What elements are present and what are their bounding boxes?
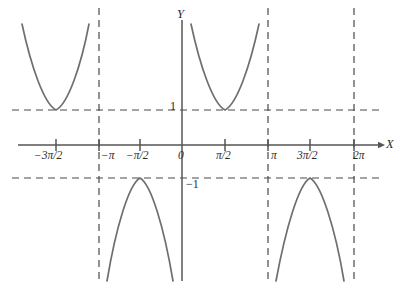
branch-upper-left	[22, 24, 89, 110]
y-value-label-one: 1	[170, 100, 176, 112]
x-tick-label-minus-3pi-over-2: −3π/2	[34, 150, 62, 162]
branch-lower-right	[276, 178, 344, 281]
x-tick-label-minus-pi: −π	[101, 150, 115, 162]
plot-canvas	[0, 0, 399, 285]
x-axis-arrow	[378, 142, 385, 148]
x-tick-label-pi: π	[271, 150, 277, 162]
branch-lower-middle	[107, 178, 173, 281]
secant-function-graph: X Y −3π/2 −π −π/2 0 π/2 π 3π/2 2π 1 −1	[0, 0, 399, 285]
y-value-label-minus-one: −1	[186, 178, 199, 190]
x-tick-label-pi-over-2: π/2	[216, 150, 231, 162]
x-tick-label-zero: 0	[178, 150, 184, 162]
x-tick-label-minus-pi-over-2: −π/2	[126, 150, 148, 162]
branch-upper-middle	[191, 24, 259, 110]
x-tick-label-3pi-over-2: 3π/2	[297, 150, 317, 162]
x-axis-label: X	[386, 138, 394, 151]
x-tick-label-2pi: 2π	[353, 150, 365, 162]
y-axis-label: Y	[177, 8, 184, 21]
